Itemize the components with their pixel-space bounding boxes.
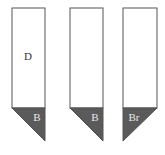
bar-1-tip-label: B xyxy=(33,111,40,123)
bar-2: B xyxy=(70,8,103,141)
bar-3-body xyxy=(123,8,157,108)
bar-3: Br xyxy=(123,8,157,141)
bar-3-tip-label: Br xyxy=(129,111,140,123)
diagram-canvas: D B B Br xyxy=(0,0,165,155)
bar-2-tip-label: B xyxy=(91,111,98,123)
bar-2-body xyxy=(70,8,103,108)
bar-1-body-label: D xyxy=(24,50,32,62)
bar-1: D B xyxy=(12,8,45,141)
